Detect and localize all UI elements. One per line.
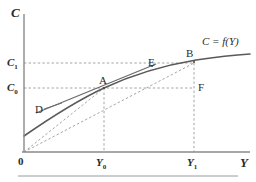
point-label-e: E [148,57,155,68]
x-tick-y1-base: Y [187,156,194,168]
origin-label: 0 [18,156,24,167]
d-leader-line [44,103,62,109]
x-tick-y1-sub: 1 [194,163,198,171]
point-marker-b [193,61,195,63]
curve-label: C = f(Y) [202,36,239,47]
x-tick-y1: Y1 [187,157,197,171]
point-label-f: F [198,82,204,93]
x-tick-y0-sub: 0 [103,163,107,171]
y-tick-c0: C0 [7,82,18,96]
y-tick-c1: C1 [7,57,18,71]
x-tick-y0: Y0 [96,157,106,171]
ray-origin-to-a [24,88,104,152]
figure-canvas [0,0,256,182]
consumption-curve [24,54,250,136]
x-axis-label: Y [240,156,248,169]
point-label-d: D [35,104,43,115]
point-label-b: B [186,48,193,59]
x-tick-y0-base: Y [96,156,103,168]
consumption-function-figure: C Y 0 C1 C0 Y0 Y1 A B D E F C = f(Y) [0,0,256,182]
y-tick-c1-sub: 1 [14,63,18,71]
y-axis-label: C [11,6,20,19]
point-label-a: A [99,75,107,86]
point-marker-a [103,87,105,89]
y-tick-c0-sub: 0 [14,88,18,96]
